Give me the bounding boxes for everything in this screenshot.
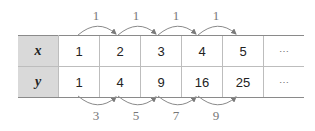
table-row-y: y 1 4 9 16 25 ⋯	[18, 67, 304, 98]
ellipsis-cell: ⋯	[264, 67, 305, 98]
table-cell: 3	[141, 36, 182, 67]
table-cell: 1	[59, 67, 100, 98]
table-row-x: x 1 2 3 4 5 ⋯	[18, 36, 304, 67]
arrow-icon	[198, 26, 236, 35]
top-difference-label: 1	[166, 8, 186, 24]
ellipsis-cell: ⋯	[264, 36, 305, 67]
top-difference-label: 1	[126, 8, 146, 24]
table-cell: 5	[223, 36, 264, 67]
table-cell: 9	[141, 67, 182, 98]
table-cell: 1	[59, 36, 100, 67]
bottom-difference-label: 9	[206, 108, 226, 124]
table-cell: 4	[100, 67, 141, 98]
table-cell: 16	[182, 67, 223, 98]
table-cell: 2	[100, 36, 141, 67]
arrow-icon	[118, 26, 156, 35]
row-header-x: x	[18, 36, 59, 67]
xy-table: x 1 2 3 4 5 ⋯ y 1 4 9 16 25 ⋯	[18, 35, 304, 98]
diagram: 1 1 1 1 3 5 7 9 x 1 2 3 4 5 ⋯ y 1 4 9 16…	[0, 0, 315, 131]
row-header-y: y	[18, 67, 59, 98]
arrow-icon	[158, 26, 196, 35]
bottom-difference-label: 3	[86, 108, 106, 124]
bottom-difference-label: 5	[126, 108, 146, 124]
bottom-difference-label: 7	[166, 108, 186, 124]
top-difference-label: 1	[86, 8, 106, 24]
table-cell: 4	[182, 36, 223, 67]
arrow-icon	[78, 26, 116, 35]
top-difference-label: 1	[206, 8, 226, 24]
table-cell: 25	[223, 67, 264, 98]
